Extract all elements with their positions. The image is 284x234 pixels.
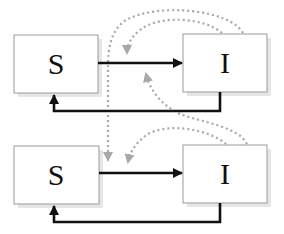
node-i2-label: I (220, 157, 230, 190)
patch-1: S I (14, 34, 271, 111)
node-s1-label: S (48, 47, 65, 80)
patch-2: S I (14, 145, 271, 222)
sis-diagram: S I S I (0, 0, 284, 234)
node-i1-label: I (220, 46, 230, 79)
node-s2-label: S (48, 158, 65, 191)
